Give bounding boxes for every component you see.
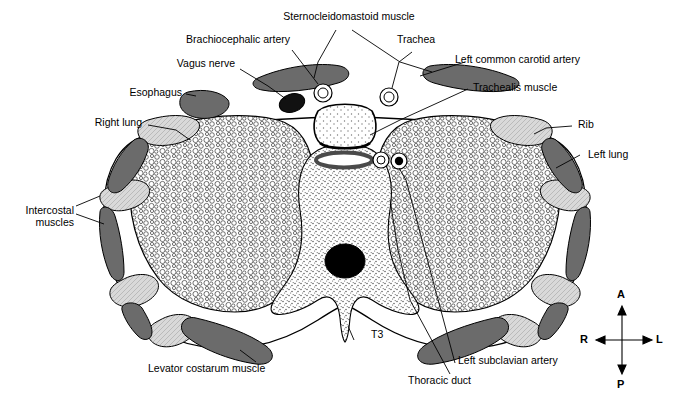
label-trachealis-muscle: Trachealis muscle: [473, 81, 557, 93]
label-vagus-nerve: Vagus nerve: [120, 57, 235, 69]
label-rib: Rib: [578, 118, 594, 130]
label-brachiocephalic-artery: Brachiocephalic artery: [150, 33, 290, 45]
label-left-common-carotid-artery: Left common carotid artery: [455, 53, 580, 65]
label-intercostal-muscles-line1: Intercostal muscles: [26, 204, 74, 228]
label-sternocleidomastoid: Sternocleidomastoid muscle: [274, 10, 424, 22]
label-esophagus: Esophagus: [86, 86, 182, 98]
label-left-subclavian-artery: Left subclavian artery: [458, 354, 558, 366]
orientation-compass-cross: [596, 306, 652, 374]
label-left-lung: Left lung: [588, 148, 628, 160]
compass-left: L: [656, 333, 663, 345]
label-levator-costarum-muscle: Levator costarum muscle: [148, 362, 265, 374]
compass-right: R: [580, 333, 588, 345]
trachealis-band: [316, 153, 372, 168]
label-thoracic-duct: Thoracic duct: [408, 374, 471, 386]
compass-posterior: P: [617, 378, 624, 390]
brachiocephalic-artery-shape: [314, 84, 332, 102]
compass-anterior: A: [617, 288, 625, 300]
label-trachea: Trachea: [397, 33, 435, 45]
figure-canvas: Sternocleidomastoid muscle Brachiocephal…: [0, 0, 690, 401]
label-right-lung: Right lung: [62, 116, 142, 128]
label-t3: T3: [371, 328, 383, 340]
left-common-carotid-shape: [380, 88, 398, 106]
label-intercostal-muscles: Intercostal muscles: [6, 192, 74, 240]
trachea-shape: [314, 104, 376, 148]
vagus-nerve-shape: [277, 90, 307, 115]
